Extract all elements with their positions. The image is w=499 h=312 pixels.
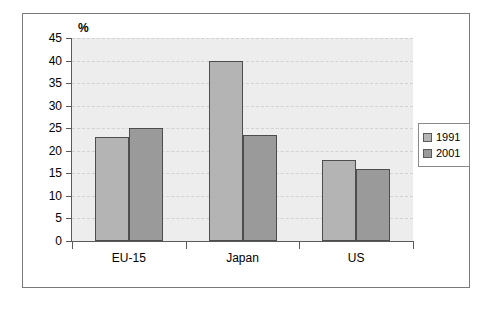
y-axis-tick-label: 20 [32, 145, 62, 157]
y-axis-tick-label: 5 [32, 212, 62, 224]
x-axis-tick [299, 242, 300, 249]
bar-eu-15-1991 [95, 137, 129, 241]
chart-figure: % 454035302520151050 EU-15JapanUS 1991 2… [0, 0, 499, 312]
category-label-eu-15: EU-15 [72, 252, 186, 265]
y-axis-tick [66, 38, 72, 39]
bar-eu-15-2001 [129, 128, 163, 241]
gridline [72, 38, 413, 39]
y-axis-tick [66, 196, 72, 197]
y-axis-tick [66, 128, 72, 129]
y-axis-tick [66, 218, 72, 219]
legend-label-1991: 1991 [436, 132, 460, 143]
y-axis-tick-label: 15 [32, 167, 62, 179]
legend-item-1991[interactable]: 1991 [423, 129, 465, 145]
category-label-japan: Japan [186, 252, 300, 265]
x-axis-tick [186, 242, 187, 249]
y-axis-line [71, 38, 72, 242]
category-label-us: US [299, 252, 413, 265]
x-axis-tick [72, 242, 73, 249]
bar-us-1991 [322, 160, 356, 241]
bar-japan-1991 [209, 61, 243, 241]
y-axis-tick [66, 61, 72, 62]
legend-item-2001[interactable]: 2001 [423, 145, 465, 161]
y-axis-tick-label: 10 [32, 190, 62, 202]
legend-label-2001: 2001 [436, 148, 460, 159]
y-axis-tick [66, 173, 72, 174]
y-axis-tick-label: 25 [32, 122, 62, 134]
x-axis-line [71, 241, 414, 242]
legend-swatch-icon-1991 [423, 133, 432, 142]
y-axis-tick-label: 0 [32, 235, 62, 247]
gridline [72, 106, 413, 107]
y-axis-tick-label: 40 [32, 55, 62, 67]
gridline [72, 61, 413, 62]
gridline [72, 83, 413, 84]
bar-us-2001 [356, 169, 390, 241]
chart-legend: 1991 2001 [418, 123, 470, 167]
y-axis-tick-label: 45 [32, 32, 62, 44]
bar-japan-2001 [243, 135, 277, 241]
legend-swatch-icon-2001 [423, 149, 432, 158]
gridline [72, 128, 413, 129]
y-axis-unit-label: % [78, 22, 89, 34]
y-axis-tick [66, 151, 72, 152]
y-axis-tick [66, 83, 72, 84]
x-axis-tick [413, 242, 414, 249]
y-axis-tick-label: 30 [32, 100, 62, 112]
y-axis-tick [66, 106, 72, 107]
y-axis-tick-label: 35 [32, 77, 62, 89]
